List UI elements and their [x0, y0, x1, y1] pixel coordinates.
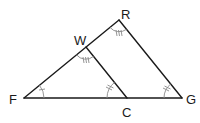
similar-triangles-diagram: R W F C G — [0, 0, 200, 123]
segment-FR — [24, 20, 119, 98]
label-G: G — [186, 92, 196, 107]
angle-mark-W — [77, 55, 94, 63]
angle-marks — [39, 27, 171, 98]
label-R: R — [121, 7, 130, 22]
label-F: F — [9, 92, 17, 107]
label-W: W — [74, 33, 87, 48]
angle-mark-F — [39, 85, 45, 98]
triangle-edges — [24, 20, 182, 98]
label-C: C — [122, 105, 131, 120]
segment-RG — [119, 20, 182, 98]
angle-mark-G — [163, 84, 171, 98]
angle-mark-R — [110, 27, 127, 36]
segment-WC — [86, 47, 127, 98]
vertex-labels: R W F C G — [9, 7, 196, 120]
angle-mark-C — [106, 82, 115, 98]
